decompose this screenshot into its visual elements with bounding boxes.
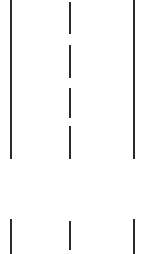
lower-left-edge-line — [10, 219, 12, 254]
lower-right-edge-line — [133, 219, 135, 254]
upper-centre-dash-1 — [69, 2, 71, 34]
upper-left-edge-line — [10, 0, 12, 159]
upper-centre-dash-3 — [69, 88, 71, 118]
upper-roadway-band — [0, 0, 153, 160]
upper-right-edge-line — [133, 0, 135, 159]
upper-centre-dash-2 — [69, 45, 71, 78]
upper-centre-dash-4 — [69, 126, 71, 159]
gap-band — [0, 160, 153, 219]
lower-centre-dash — [69, 221, 71, 250]
road-lane-marking-diagram — [0, 0, 153, 254]
lower-roadway-band — [0, 219, 153, 254]
